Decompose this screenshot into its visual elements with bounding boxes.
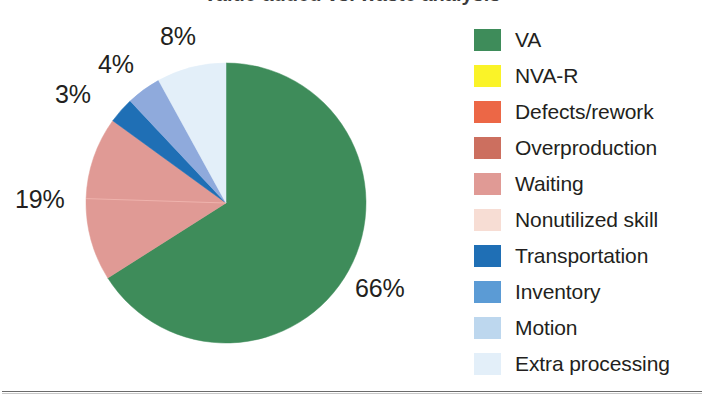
legend-swatch-icon <box>474 65 501 87</box>
pie-label-waiting: 19% <box>15 185 64 214</box>
legend-swatch-icon <box>474 317 501 339</box>
legend-item-extra-processing[interactable]: Extra processing <box>474 346 700 382</box>
legend-swatch-icon <box>474 209 501 231</box>
legend-item-defects-rework[interactable]: Defects/rework <box>474 94 700 130</box>
legend-swatch-icon <box>474 101 501 123</box>
legend-swatch-icon <box>474 281 501 303</box>
legend-item-label: NVA-R <box>515 64 578 88</box>
legend-item-label: Nonutilized skill <box>515 208 658 232</box>
legend-item-label: Motion <box>515 316 577 340</box>
bottom-divider <box>2 391 702 392</box>
legend-item-label: Overproduction <box>515 136 657 160</box>
bottom-divider-shadow <box>2 393 702 394</box>
legend-item-inventory[interactable]: Inventory <box>474 274 700 310</box>
legend-swatch-icon <box>474 137 501 159</box>
legend-item-label: Defects/rework <box>515 100 654 124</box>
legend-swatch-icon <box>474 29 501 51</box>
legend-item-nonutilized-skill[interactable]: Nonutilized skill <box>474 202 700 238</box>
legend-swatch-icon <box>474 353 501 375</box>
pie-label-va: 66% <box>355 274 404 303</box>
pie-chart-plot-area: 66% 19% 3% 4% 8% <box>0 0 470 380</box>
pie-chart-svg <box>0 0 470 380</box>
pie-chart-figure: Value-added vs. waste analysis 66% 19% 3… <box>0 0 704 399</box>
legend-item-label: Waiting <box>515 172 584 196</box>
legend-item-label: Extra processing <box>515 352 670 376</box>
pie-label-motion: 8% <box>160 22 196 51</box>
legend-item-label: VA <box>515 28 541 52</box>
legend-item-label: Transportation <box>515 244 648 268</box>
pie-label-transportation: 3% <box>55 80 91 109</box>
legend-item-va[interactable]: VA <box>474 22 700 58</box>
legend-item-transportation[interactable]: Transportation <box>474 238 700 274</box>
legend-item-label: Inventory <box>515 280 600 304</box>
pie-label-inventory: 4% <box>98 50 134 79</box>
legend-swatch-icon <box>474 245 501 267</box>
legend-item-nva-r[interactable]: NVA-R <box>474 58 700 94</box>
legend-item-waiting[interactable]: Waiting <box>474 166 700 202</box>
legend: VANVA-RDefects/reworkOverproductionWaiti… <box>474 22 700 382</box>
legend-item-overproduction[interactable]: Overproduction <box>474 130 700 166</box>
pie-slice-group <box>86 63 366 343</box>
legend-swatch-icon <box>474 173 501 195</box>
legend-item-motion[interactable]: Motion <box>474 310 700 346</box>
